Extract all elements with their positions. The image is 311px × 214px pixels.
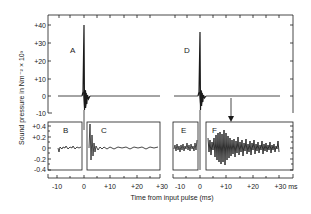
right-xtick-labels: -10 0 +10 +20 +30 ms <box>175 183 298 190</box>
ytick-0-4: +0.4 <box>32 123 46 130</box>
trace-c <box>89 124 158 160</box>
bottom-right-xticks <box>186 175 279 178</box>
panel-label-f: F <box>212 126 217 135</box>
bottom-yaxis-ticks <box>48 126 51 170</box>
trace-e <box>174 140 197 152</box>
xtick-left-minus-10: -10 <box>52 183 62 190</box>
xtick-right-10: +10 <box>220 183 232 190</box>
ytick-30: +30 <box>34 40 46 47</box>
xtick-left-30: +30 <box>156 183 168 190</box>
panel-label-b: B <box>63 126 68 135</box>
bottom-right-yaxis-ticks <box>290 126 293 170</box>
xtick-left-20: +20 <box>131 183 143 190</box>
xtick-left-10: +10 <box>104 183 116 190</box>
bottom-left-xticks <box>57 175 150 178</box>
xtick-right-0: 0 <box>198 183 202 190</box>
ytick-40: +40 <box>34 22 46 29</box>
bottom-left-xaxis <box>48 174 160 178</box>
ytick-0-2: +0.2 <box>32 134 46 141</box>
arrow-head-icon <box>228 116 234 122</box>
panel-label-c: C <box>101 126 107 135</box>
top-right-yaxis-ticks <box>290 25 293 96</box>
ytick-0-small: 0 <box>42 145 46 152</box>
ytick-minus-0-4: -0.4 <box>34 166 46 173</box>
panel-label-d: D <box>184 46 190 55</box>
xtick-right-30-ms: +30 ms <box>274 183 298 190</box>
trace-f <box>208 130 279 165</box>
top-ytick-labels: +40 +30 +20 +10 0 -10 <box>34 22 46 117</box>
xtick-right-minus-10: -10 <box>175 183 185 190</box>
ytick-20: +20 <box>34 58 46 65</box>
box-c <box>87 122 160 170</box>
trace-b <box>58 146 81 152</box>
panel-label-a: A <box>70 46 76 55</box>
x-axis-title: Time from input pulse (ms) <box>131 194 214 202</box>
ytick-0: 0 <box>42 93 46 100</box>
y-axis-title: Sound pressure in Nm⁻² × 10³ <box>18 50 26 145</box>
chart-figure: +40 +30 +20 +10 0 -10 +0.4 +0.2 0 -0.2 -… <box>0 0 311 214</box>
xtick-left-0: 0 <box>82 183 86 190</box>
panel-label-e: E <box>181 126 186 135</box>
bottom-ytick-labels: +0.4 +0.2 0 -0.2 -0.4 <box>32 123 46 174</box>
ytick-10: +10 <box>34 76 46 83</box>
top-edge-ticks <box>59 15 279 18</box>
chart-svg: +40 +30 +20 +10 0 -10 +0.4 +0.2 0 -0.2 -… <box>0 0 311 214</box>
trace-a-burst <box>83 90 87 108</box>
ytick-minus-0-2: -0.2 <box>34 156 46 163</box>
left-xtick-labels: -10 0 +10 +20 +30 <box>52 183 168 190</box>
ytick-minus-10: -10 <box>36 110 46 117</box>
bottom-right-xaxis <box>173 174 293 178</box>
xtick-right-20: +20 <box>247 183 259 190</box>
top-yaxis-ticks <box>48 25 52 113</box>
